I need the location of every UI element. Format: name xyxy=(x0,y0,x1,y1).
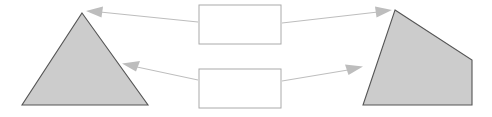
diagram-svg xyxy=(0,0,492,117)
box-top[interactable] xyxy=(199,5,281,44)
arrow-top-box-to-quadrilateral-head xyxy=(375,7,392,18)
arrow-bottom-box-to-triangle xyxy=(122,61,198,80)
arrow-top-box-to-quadrilateral-line xyxy=(282,12,378,23)
arrow-top-box-to-triangle-head xyxy=(86,7,103,18)
box-bottom-rect[interactable] xyxy=(199,69,281,108)
diagram-canvas xyxy=(0,0,492,117)
shape-quadrilateral xyxy=(363,10,472,105)
arrow-top-box-to-quadrilateral xyxy=(282,7,392,24)
box-top-rect[interactable] xyxy=(199,5,281,44)
arrow-bottom-box-to-quadrilateral xyxy=(282,65,363,82)
box-bottom[interactable] xyxy=(199,69,281,108)
arrow-top-box-to-triangle xyxy=(86,7,198,23)
arrow-bottom-box-to-quadrilateral-line xyxy=(282,70,348,81)
arrow-bottom-box-to-quadrilateral-head xyxy=(345,65,363,76)
arrow-bottom-box-to-triangle-head xyxy=(122,61,140,72)
arrow-top-box-to-triangle-line xyxy=(100,12,198,22)
arrow-bottom-box-to-triangle-line xyxy=(137,67,198,80)
shape-triangle xyxy=(22,13,148,105)
